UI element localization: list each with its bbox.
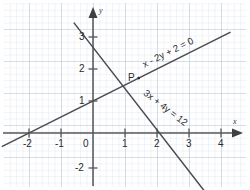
y-axis-name: y xyxy=(99,6,103,15)
x-tick-label-2: 2 xyxy=(154,139,160,149)
line-x-minus-2y-plus-2 xyxy=(2,32,231,146)
x-tick-label-1: 1 xyxy=(122,139,128,149)
y-tick-label-3: 3 xyxy=(79,32,85,42)
graph-figure: -2 -1 1 2 3 4 0 3 2 1 -2 y x x - 2y + 2 … xyxy=(0,0,250,190)
intersection-point-marker xyxy=(137,77,140,80)
line-3x-plus-4y-equals-12 xyxy=(74,23,212,190)
x-tick-label--1: -1 xyxy=(55,139,64,149)
x-axis xyxy=(3,129,243,138)
plot-layer xyxy=(0,0,250,190)
x-axis-name: x xyxy=(233,117,237,126)
x-tick-label-4: 4 xyxy=(218,139,224,149)
y-tick-label--2: -2 xyxy=(75,163,84,173)
x-tick-label-3: 3 xyxy=(186,139,192,149)
y-tick-label-2: 2 xyxy=(79,64,85,74)
y-tick-label-1: 1 xyxy=(79,96,85,106)
x-tick-label--2: -2 xyxy=(23,139,32,149)
y-axis xyxy=(89,7,98,186)
point-p-label: P xyxy=(128,72,135,83)
origin-label: 0 xyxy=(83,139,89,149)
